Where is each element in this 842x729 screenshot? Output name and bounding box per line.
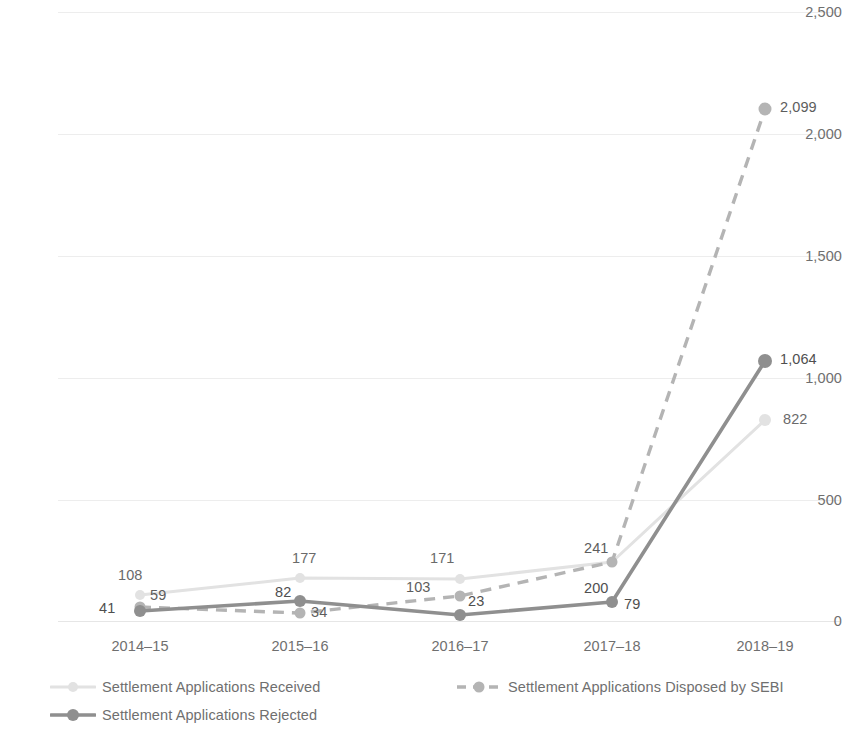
legend-swatch-received-icon — [50, 679, 96, 695]
data-label-disposed-2017-18: 241 — [584, 541, 609, 556]
gridline-2500 — [58, 12, 840, 13]
legend-item-received[interactable]: Settlement Applications Received — [50, 677, 320, 697]
y-axis-label-1000: 1,000 — [790, 371, 842, 386]
x-axis-label-2018-19: 2018–19 — [736, 639, 793, 654]
legend-item-disposed[interactable]: Settlement Applications Disposed by SEBI — [456, 677, 784, 697]
x-axis-label-2015-16: 2015–16 — [271, 639, 328, 654]
series-line-disposed — [140, 109, 765, 613]
gridline-0 — [58, 621, 840, 622]
x-axis-label-2017-18: 2017–18 — [583, 639, 640, 654]
data-label-received-2016-17: 171 — [430, 551, 455, 566]
data-label-disposed-2014-15: 59 — [150, 588, 166, 603]
y-axis-label-0: 0 — [790, 614, 842, 629]
y-axis-label-2000: 2,000 — [790, 127, 842, 142]
data-label-received-2015-16: 177 — [292, 551, 317, 566]
legend-label-received: Settlement Applications Received — [102, 680, 320, 695]
series-markers-received — [135, 414, 771, 600]
data-label-received-2014-15: 108 — [118, 568, 143, 583]
y-axis-label-1500: 1,500 — [790, 249, 842, 264]
line-chart: 2,500 2,000 1,500 1,000 500 0 — [0, 0, 842, 729]
series-markers-rejected — [134, 354, 772, 621]
legend-item-rejected[interactable]: Settlement Applications Rejected — [50, 705, 317, 725]
data-label-received-2018-19: 822 — [783, 412, 808, 427]
data-label-received-2017-18: 200 — [584, 581, 609, 596]
gridline-2000 — [58, 134, 840, 135]
data-label-rejected-2015-16: 82 — [275, 585, 291, 600]
chart-legend: Settlement Applications Received Settlem… — [50, 672, 830, 728]
data-label-rejected-2016-17: 23 — [468, 594, 484, 609]
y-axis-label-500: 500 — [790, 493, 842, 508]
plot-area — [0, 0, 842, 729]
x-axis-label-2014-15: 2014–15 — [111, 639, 168, 654]
data-label-rejected-2017-18: 79 — [624, 597, 640, 612]
data-label-rejected-2014-15: 41 — [99, 601, 115, 616]
data-label-rejected-2018-19: 1,064 — [780, 352, 817, 367]
legend-label-rejected: Settlement Applications Rejected — [102, 708, 317, 723]
data-label-disposed-2015-16: 34 — [311, 605, 327, 620]
data-label-disposed-2018-19: 2,099 — [780, 100, 817, 115]
series-markers-disposed — [135, 103, 772, 619]
x-axis-label-2016-17: 2016–17 — [431, 639, 488, 654]
gridline-500 — [58, 500, 840, 501]
gridline-1500 — [58, 256, 840, 257]
series-line-received — [140, 420, 765, 595]
series-line-rejected — [140, 361, 765, 615]
data-label-disposed-2016-17: 103 — [406, 580, 431, 595]
y-axis-label-2500: 2,500 — [790, 5, 842, 20]
gridline-1000 — [58, 378, 840, 379]
legend-swatch-disposed-icon — [456, 679, 502, 695]
legend-swatch-rejected-icon — [50, 707, 96, 723]
legend-label-disposed: Settlement Applications Disposed by SEBI — [508, 680, 784, 695]
